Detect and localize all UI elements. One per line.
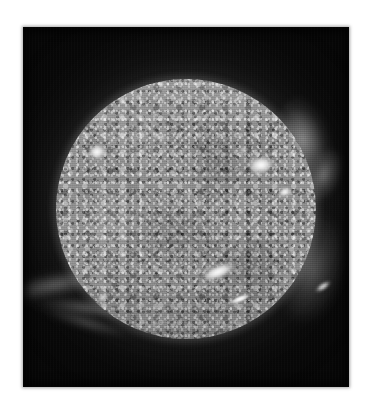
- granulation-fine: [56, 79, 316, 339]
- granulation-coarse: [56, 79, 316, 339]
- solar-photograph: [23, 27, 349, 387]
- solar-image-page: [0, 0, 373, 403]
- granulation-medium: [56, 79, 316, 339]
- coronal-hole-patches: [56, 79, 316, 339]
- active-region-east-limb-small: [311, 277, 334, 297]
- limb-shading: [56, 79, 316, 339]
- solar-disk: [56, 79, 316, 339]
